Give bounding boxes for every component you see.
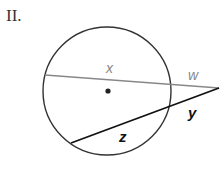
lower-secant	[71, 88, 219, 143]
label-w: w	[188, 67, 199, 83]
secant-diagram: x w y z	[0, 0, 221, 169]
label-y: y	[187, 104, 197, 121]
center-dot	[105, 88, 110, 93]
label-x: x	[105, 60, 114, 76]
label-z: z	[118, 128, 127, 145]
